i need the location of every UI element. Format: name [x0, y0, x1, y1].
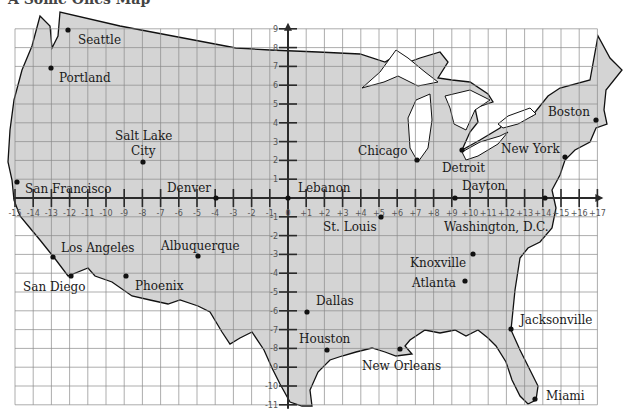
- x-tick-label: -13: [45, 209, 58, 218]
- city-dot-icon: [414, 157, 419, 162]
- city-dot-icon: [532, 396, 537, 401]
- y-tick-label: -6: [270, 307, 278, 316]
- x-tick-label: +10: [462, 209, 479, 218]
- city-dot-icon: [562, 154, 567, 159]
- x-tick-label: -14: [27, 209, 40, 218]
- city-dot-icon: [65, 27, 70, 32]
- y-tick-label: -9: [270, 363, 278, 372]
- y-tick-label: 9: [273, 25, 278, 34]
- city-label: New York: [501, 142, 561, 156]
- y-tick-label: 7: [273, 62, 278, 71]
- city-label: Seattle: [78, 33, 121, 47]
- x-tick-label: -8: [138, 209, 146, 218]
- x-tick-label: -9: [120, 209, 128, 218]
- city-dot-icon: [123, 273, 128, 278]
- city-san-francisco: San Francisco: [14, 179, 111, 196]
- city-dot-icon: [48, 65, 53, 70]
- city-dot-icon: [593, 117, 598, 122]
- city-label: Salt Lake: [115, 129, 172, 143]
- x-tick-label: +14: [534, 209, 551, 218]
- x-tick-label: -4: [211, 209, 219, 218]
- x-tick-label: +2: [319, 209, 331, 218]
- x-tick-label: +15: [553, 209, 570, 218]
- y-tick-label: 4: [273, 119, 278, 128]
- city-label: Boston: [548, 105, 590, 119]
- x-tick-label: -11: [81, 209, 94, 218]
- y-tick-label: -8: [270, 344, 278, 353]
- city-label: St. Louis: [323, 220, 377, 234]
- x-tick-label: -5: [193, 209, 201, 218]
- x-tick-label: -15: [8, 209, 21, 218]
- city-dot-icon: [195, 253, 200, 258]
- y-tick-label: -11: [265, 401, 278, 410]
- city-label: Lebanon: [298, 181, 351, 195]
- x-tick-label: +12: [498, 209, 515, 218]
- x-tick-label: -6: [175, 209, 183, 218]
- city-dot-icon: [459, 147, 464, 152]
- city-dot-icon: [452, 195, 457, 200]
- x-tick-label: +7: [410, 209, 422, 218]
- city-label: Miami: [546, 389, 585, 403]
- city-dot-icon: [213, 195, 218, 200]
- y-tick-label: -2: [270, 232, 278, 241]
- y-tick-label: -4: [270, 269, 278, 278]
- x-tick-label: +4: [355, 209, 367, 218]
- city-dot-icon: [324, 347, 329, 352]
- x-tick-label: +11: [480, 209, 497, 218]
- y-tick-label: 5: [273, 100, 278, 109]
- city-miami: Miami: [532, 389, 584, 403]
- city-city: City: [131, 144, 156, 158]
- x-tick-label: +8: [428, 209, 440, 218]
- city-dot-icon: [285, 195, 290, 200]
- x-tick-label: +16: [571, 209, 588, 218]
- city-label: New Orleans: [362, 359, 441, 373]
- y-tick-label: 6: [273, 81, 278, 90]
- city-label: Chicago: [358, 144, 408, 158]
- y-tick-label: -1: [270, 213, 278, 222]
- x-tick-label: +1: [300, 209, 312, 218]
- x-tick-label: -10: [99, 209, 112, 218]
- city-dot-icon: [140, 159, 145, 164]
- city-san-diego: San Diego: [23, 273, 85, 294]
- y-tick-label: 3: [273, 138, 278, 147]
- x-tick-label: -3: [229, 209, 237, 218]
- x-tick-label: -2: [248, 209, 256, 218]
- city-label: San Diego: [23, 280, 85, 294]
- city-dot-icon: [462, 278, 467, 283]
- x-tick-label: 0: [285, 209, 290, 218]
- city-label: Phoenix: [135, 279, 184, 293]
- city-label: San Francisco: [25, 182, 112, 196]
- city-label: Atlanta: [411, 276, 456, 290]
- x-tick-label: +13: [516, 209, 533, 218]
- y-tick-label: 8: [273, 44, 278, 53]
- city-label: Washington, D.C.: [444, 220, 549, 234]
- x-tick-label: -12: [63, 209, 76, 218]
- city-label: Jacksonville: [518, 313, 592, 327]
- us-coordinate-map: -15-14-13-12-11-10-9-8-7-6-5-4-3-2-10+1+…: [0, 0, 631, 416]
- city-dot-icon: [542, 195, 547, 200]
- city-dot-icon: [68, 273, 73, 278]
- city-label: Portland: [59, 71, 111, 85]
- city-label: Dallas: [316, 294, 354, 308]
- city-jacksonville: Jacksonville: [508, 313, 592, 332]
- city-label: Los Angeles: [61, 241, 134, 255]
- city-dot-icon: [50, 254, 55, 259]
- y-tick-label: -3: [270, 250, 278, 259]
- city-label: Houston: [299, 332, 351, 346]
- x-tick-label: -7: [157, 209, 165, 218]
- x-tick-label: +3: [337, 209, 349, 218]
- x-tick-label: +9: [446, 209, 458, 218]
- x-tick-label: +17: [589, 209, 606, 218]
- city-label: Albuquerque: [160, 239, 240, 253]
- x-tick-label: +6: [391, 209, 403, 218]
- city-dot-icon: [397, 346, 402, 351]
- city-label: City: [131, 144, 156, 158]
- y-tick-label: 2: [273, 156, 278, 165]
- city-label: Dayton: [462, 179, 506, 193]
- city-new-orleans: New Orleans: [362, 346, 441, 373]
- city-dot-icon: [378, 214, 383, 219]
- y-tick-label: -7: [270, 326, 278, 335]
- y-tick-label: 1: [273, 175, 278, 184]
- city-label: Denver: [167, 181, 211, 195]
- city-label: Knoxville: [410, 256, 466, 270]
